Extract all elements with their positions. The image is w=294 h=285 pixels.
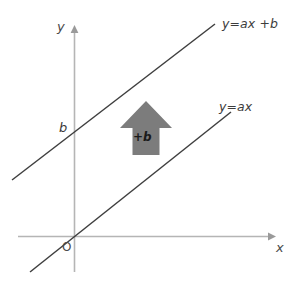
- lower-line-label: y=ax: [219, 101, 252, 114]
- x-axis: [18, 233, 276, 241]
- math-diagram-figure: y x O b y=ax +b y=ax +b: [0, 0, 294, 285]
- shift-label: +b: [133, 131, 152, 143]
- shift-arrow-icon: [120, 101, 172, 155]
- x-axis-arrowhead: [268, 233, 276, 241]
- lower-line: [30, 112, 231, 272]
- x-axis-label: x: [276, 241, 284, 254]
- upper-line: [12, 24, 215, 180]
- y-axis-label: y: [57, 20, 65, 33]
- intercept-label: b: [59, 121, 67, 134]
- upper-line-label: y=ax +b: [222, 18, 278, 31]
- y-axis-arrowhead: [71, 25, 79, 33]
- origin-label: O: [62, 241, 71, 253]
